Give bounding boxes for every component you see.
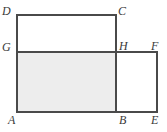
vertex-label-d: D [2, 5, 11, 17]
vertex-label-a: A [8, 114, 15, 126]
figure-canvas [0, 0, 167, 132]
vertex-label-g: G [2, 41, 11, 53]
geometry-figure: D C G H F A B E [0, 0, 167, 132]
vertex-label-h: H [119, 40, 128, 52]
vertex-label-c: C [118, 5, 126, 17]
vertex-label-b: B [119, 114, 126, 126]
vertex-label-f: F [151, 40, 158, 52]
vertex-label-e: E [151, 114, 158, 126]
shaded-region-abhg [17, 52, 116, 112]
